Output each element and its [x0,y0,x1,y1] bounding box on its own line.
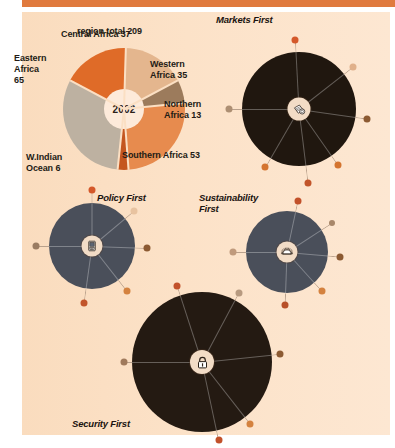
top-orange-rule [22,0,395,7]
wheel-endpoint-dot [130,208,137,215]
wheel-endpoint-dot [294,197,301,204]
wheel-endpoint-dot [349,63,356,70]
wheel-hub [288,98,311,121]
padlock-icon [195,355,210,370]
wheel-endpoint-dot [226,106,233,113]
wheel-endpoint-dot [120,359,127,366]
wheel-endpoint-dot [235,289,242,296]
wheel-endpoint-dot [329,220,335,226]
scenario-title-policy-first: Policy First [97,192,146,203]
label-southern-africa: Southern Africa 53 [122,150,200,161]
label-northern-africa: Northern Africa 13 [164,99,201,121]
label-eastern-africa: Eastern Africa 65 [14,53,46,86]
label-central-africa: Central Africa 37 [61,29,131,40]
wheel-endpoint-dot [229,249,236,256]
wheel-hub [82,236,103,257]
scenario-title-security-first: Security First [72,418,130,429]
wheel-endpoint-dot [215,437,222,444]
wheel-endpoint-dot [292,36,299,43]
wheel-endpoint-dot [144,244,151,251]
wheel-hub [277,242,298,263]
wheel-endpoint-dot [123,287,130,294]
wheel-endpoint-dot [174,283,181,290]
scenario-title-sustainability-first: Sustainability First [199,192,258,214]
wheel-endpoint-dot [80,300,87,307]
scenario-title-markets-first: Markets First [216,14,273,25]
wheel-endpoint-dot [89,187,96,194]
wheel-endpoint-dot [337,253,344,260]
wheel-endpoint-dot [335,162,342,169]
label-western-africa: Western Africa 35 [150,59,187,81]
wheel-hub [190,350,214,374]
wheel-endpoint-dot [247,420,254,427]
wheel-endpoint-dot [33,243,40,250]
scenario-wheel-markets-first [242,52,356,166]
wheel-endpoint-dot [276,350,283,357]
money-icon [292,102,306,116]
scenario-wheel-sustainability-first [246,211,328,293]
page-root: 2002 region total 209 Central Africa 37 … [0,0,395,448]
scenario-wheel-security-first [132,292,272,432]
wheel-endpoint-dot [282,302,289,309]
label-w-indian-ocean: W.Indian Ocean 6 [26,152,62,174]
wheel-endpoint-dot [262,164,269,171]
scenario-wheel-policy-first [49,203,135,289]
wheel-endpoint-dot [305,179,312,186]
sun-icon [281,246,294,259]
figure-panel: 2002 region total 209 Central Africa 37 … [22,12,390,435]
computer-icon [86,240,99,253]
wheel-endpoint-dot [319,288,326,295]
wheel-endpoint-dot [363,115,370,122]
